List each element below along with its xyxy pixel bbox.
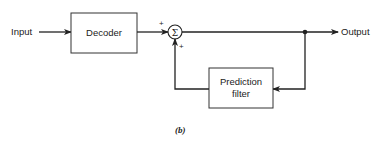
decoder-block: Decoder [71, 13, 137, 53]
figure-caption: (b) [175, 125, 186, 135]
input-label: Input [11, 26, 32, 37]
summing-junction: Σ [168, 25, 182, 39]
summer-plus-sign-top: + [159, 19, 164, 28]
prediction-filter-block: Prediction filter [209, 68, 273, 108]
sigma-symbol: Σ [172, 28, 178, 38]
output-label: Output [341, 26, 370, 37]
feedback-arrow-to-filter [273, 32, 305, 89]
prediction-filter-label-line2: filter [232, 88, 250, 99]
prediction-filter-label-line1: Prediction [220, 76, 262, 87]
decoder-label: Decoder [86, 27, 122, 38]
summer-plus-sign-bottom: + [179, 42, 184, 51]
block-diagram: Input Decoder + Σ + Output Prediction fi… [0, 0, 382, 144]
